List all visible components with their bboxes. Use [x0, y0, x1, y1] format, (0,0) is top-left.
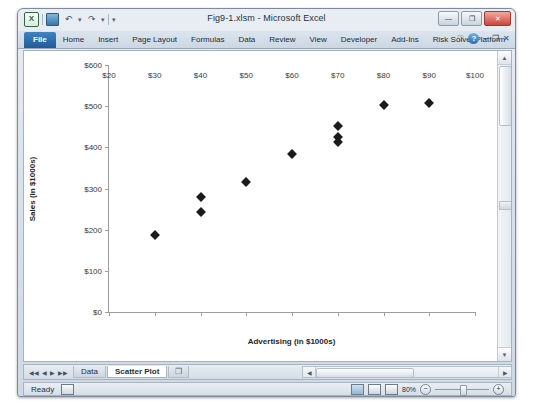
x-axis-tick — [429, 312, 430, 316]
y-axis-tick-label: $400 — [84, 143, 102, 152]
ribbon-right-icons: ♡ ? − ❐ ✕ — [457, 33, 510, 44]
x-axis-tick-label: $20 — [102, 71, 115, 80]
macro-record-icon[interactable] — [61, 384, 74, 395]
first-sheet-button[interactable]: ◀◀ — [29, 369, 39, 376]
x-axis-tick-label: $70 — [331, 71, 344, 80]
ribbon-options-icon[interactable]: ♡ — [457, 34, 464, 43]
sheet-nav-buttons: ◀◀ ◀ ▶ ▶▶ — [24, 369, 73, 376]
page-break-view-button[interactable] — [385, 384, 398, 395]
excel-application-window: X ↶ ▾ ↷ ▾ ▾ Fig9-1.xlsm - Microsoft Exce… — [17, 8, 516, 397]
scatter-data-point[interactable] — [196, 192, 206, 202]
excel-window-screenshot: X ↶ ▾ ↷ ▾ ▾ Fig9-1.xlsm - Microsoft Exce… — [0, 0, 533, 409]
y-axis-tick — [105, 65, 109, 66]
page-layout-view-button[interactable] — [368, 384, 381, 395]
y-axis-tick-label: $100 — [84, 266, 102, 275]
horizontal-scroll-thumb[interactable] — [316, 368, 414, 378]
zoom-in-button[interactable]: + — [493, 384, 504, 395]
vertical-scroll-thumb[interactable] — [499, 66, 512, 126]
y-axis-tick — [105, 106, 109, 107]
scatter-data-point[interactable] — [241, 177, 251, 187]
x-axis-tick-label: $40 — [194, 71, 207, 80]
y-axis-tick — [105, 230, 109, 231]
tab-review[interactable]: Review — [262, 32, 302, 48]
prev-sheet-button[interactable]: ◀ — [42, 369, 47, 376]
y-axis-tick-label: $0 — [93, 308, 102, 317]
y-axis-tick-label: $200 — [84, 225, 102, 234]
title-bar: X ↶ ▾ ↷ ▾ ▾ Fig9-1.xlsm - Microsoft Exce… — [18, 9, 515, 31]
zoom-slider[interactable] — [435, 389, 489, 390]
scroll-up-button[interactable]: ▲ — [498, 51, 511, 65]
y-axis-title: Sales (in $1000s) — [28, 157, 37, 221]
x-axis-tick — [201, 312, 202, 316]
status-bar: Ready 80% − + — [23, 382, 512, 396]
tab-formulas[interactable]: Formulas — [184, 32, 231, 48]
tab-data[interactable]: Data — [231, 32, 262, 48]
x-axis-tick-label: $90 — [423, 71, 436, 80]
x-axis-tick-label: $50 — [240, 71, 253, 80]
y-axis-tick — [105, 189, 109, 190]
scroll-right-button[interactable]: ▶ — [498, 367, 511, 377]
close-button[interactable]: ✕ — [484, 11, 511, 26]
close-workbook-icon[interactable]: ✕ — [503, 34, 510, 43]
x-axis-tick-label: $30 — [148, 71, 161, 80]
x-axis-tick — [155, 312, 156, 316]
restore-window-icon[interactable]: ❐ — [492, 34, 499, 43]
minimize-ribbon-icon[interactable]: − — [483, 34, 488, 43]
y-axis-tick — [105, 147, 109, 148]
x-axis-tick — [109, 312, 110, 316]
x-axis-tick — [384, 312, 385, 316]
split-grip[interactable] — [499, 201, 512, 210]
next-sheet-button[interactable]: ▶ — [50, 369, 55, 376]
worksheet-area: Sales (in $1000s) $0$100$200$300$400$500… — [23, 50, 512, 362]
scatter-data-point[interactable] — [196, 207, 206, 217]
x-axis-tick — [246, 312, 247, 316]
status-mode-label: Ready — [24, 385, 54, 394]
scatter-data-point[interactable] — [424, 98, 434, 108]
sheet-tab-scatter-plot[interactable]: Scatter Plot — [107, 366, 167, 378]
scatter-data-point[interactable] — [333, 121, 343, 131]
scatter-data-point[interactable] — [379, 100, 389, 110]
zoom-out-button[interactable]: − — [420, 384, 431, 395]
zoom-slider-thumb[interactable] — [460, 385, 467, 396]
zoom-level-label: 80% — [402, 386, 416, 393]
y-axis-tick-label: $600 — [84, 61, 102, 70]
window-controls: — ❐ ✕ — [438, 11, 511, 26]
x-axis-tick — [338, 312, 339, 316]
help-icon[interactable]: ? — [468, 33, 479, 44]
scroll-down-button[interactable]: ▼ — [498, 347, 511, 361]
ribbon-tabs: File Home Insert Page Layout Formulas Da… — [24, 31, 512, 48]
scatter-data-point[interactable] — [287, 149, 297, 159]
y-axis-tick-label: $500 — [84, 102, 102, 111]
y-axis-tick — [105, 271, 109, 272]
tab-insert[interactable]: Insert — [91, 32, 125, 48]
vertical-scrollbar[interactable]: ▲ ▼ — [497, 51, 511, 361]
ribbon-tab-bar: File Home Insert Page Layout Formulas Da… — [18, 31, 515, 49]
tab-developer[interactable]: Developer — [334, 32, 384, 48]
tab-file[interactable]: File — [24, 32, 56, 48]
x-axis-tick-label: $60 — [285, 71, 298, 80]
scatter-data-point[interactable] — [150, 230, 160, 240]
chart-plot-area: $0$100$200$300$400$500$600$20$30$40$50$6… — [108, 65, 475, 313]
tab-add-ins[interactable]: Add-Ins — [384, 32, 426, 48]
tab-page-layout[interactable]: Page Layout — [125, 32, 184, 48]
horizontal-scrollbar[interactable]: ◀ ▶ — [302, 366, 512, 378]
x-axis-title: Advertising (in $1000s) — [108, 337, 475, 346]
x-axis-tick-label: $80 — [377, 71, 390, 80]
tab-view[interactable]: View — [303, 32, 334, 48]
minimize-button[interactable]: — — [438, 11, 459, 26]
status-right-group: 80% − + — [351, 384, 511, 395]
x-axis-tick — [292, 312, 293, 316]
scroll-left-button[interactable]: ◀ — [303, 367, 316, 377]
tab-home[interactable]: Home — [56, 32, 91, 48]
insert-worksheet-icon[interactable]: ❐ — [168, 366, 189, 378]
restore-button[interactable]: ❐ — [461, 11, 482, 26]
x-axis-tick-label: $100 — [466, 71, 484, 80]
sheet-tab-data[interactable]: Data — [73, 366, 106, 378]
x-axis-tick — [475, 312, 476, 316]
y-axis-tick-label: $300 — [84, 184, 102, 193]
normal-view-button[interactable] — [351, 384, 364, 395]
scatter-chart[interactable]: Sales (in $1000s) $0$100$200$300$400$500… — [24, 51, 499, 361]
last-sheet-button[interactable]: ▶▶ — [58, 369, 68, 376]
